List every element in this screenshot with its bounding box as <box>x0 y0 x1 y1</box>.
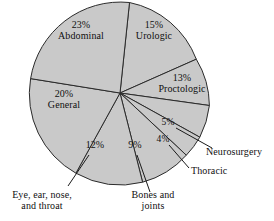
slice-name-urologic: Urologic <box>116 31 192 42</box>
slice-label-proctologic: 13% Proctologic <box>140 73 224 94</box>
slice-pct-thoracic-wrap: 4% <box>150 135 176 145</box>
callout-name-eent-line1: Eye, ear, nose, <box>2 190 82 201</box>
slice-pct-abdominal: 23% <box>36 20 126 31</box>
callout-name-bones-line1: Bones and <box>122 190 184 201</box>
slice-pct-neurosurgery-wrap: 5% <box>155 118 181 128</box>
slice-pct-bones-wrap: 9% <box>122 140 148 151</box>
callout-label-thoracic: Thoracic <box>191 166 251 177</box>
slice-name-abdominal: Abdominal <box>36 31 126 42</box>
pie-chart-figure: 23% Abdominal 15% Urologic 13% Proctolog… <box>0 0 274 221</box>
slice-label-abdominal: 23% Abdominal <box>36 20 126 41</box>
slice-pct-urologic: 15% <box>116 20 192 31</box>
slice-pct-proctologic: 13% <box>140 73 224 84</box>
slice-pct-bones-and-joints: 9% <box>122 140 148 151</box>
slice-label-general: 20% General <box>26 89 102 110</box>
slice-name-proctologic: Proctologic <box>140 84 224 95</box>
slice-pct-eent-wrap: 12% <box>80 140 110 151</box>
slice-label-urologic: 15% Urologic <box>116 20 192 41</box>
slice-pct-neurosurgery: 5% <box>155 118 181 128</box>
slice-name-general: General <box>26 100 102 111</box>
slice-pct-thoracic: 4% <box>150 135 176 145</box>
callout-name-eent-line2: and throat <box>2 201 82 212</box>
slice-pct-eye-ear-nose-throat: 12% <box>80 140 110 151</box>
callout-name-neurosurgery: Neurosurgery <box>206 147 274 158</box>
callout-label-eye-ear-nose-throat: Eye, ear, nose, and throat <box>2 190 82 211</box>
callout-name-bones-line2: joints <box>122 201 184 212</box>
callout-label-neurosurgery: Neurosurgery <box>206 147 274 158</box>
callout-name-thoracic: Thoracic <box>191 166 251 177</box>
slice-abdominal[interactable] <box>31 2 130 93</box>
slice-pct-general: 20% <box>26 89 102 100</box>
callout-label-bones-and-joints: Bones and joints <box>122 190 184 211</box>
